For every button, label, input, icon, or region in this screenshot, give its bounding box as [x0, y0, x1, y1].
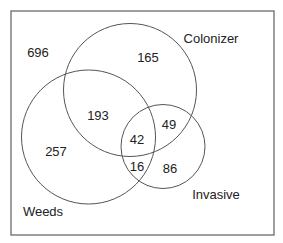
region-colonizer-only-count: 165: [137, 50, 159, 65]
region-invasive-only-count: 86: [163, 161, 177, 176]
region-all-three-count: 42: [130, 132, 144, 147]
venn-diagram: Colonizer Weeds Invasive 696 165 193 49 …: [0, 0, 283, 243]
invasive-label: Invasive: [192, 187, 240, 202]
region-colonizer-invasive-count: 49: [162, 117, 176, 132]
weeds-label: Weeds: [23, 204, 64, 219]
region-weeds-only-count: 257: [45, 144, 67, 159]
region-weeds-invasive-count: 16: [130, 159, 144, 174]
region-weeds-colonizer-count: 193: [87, 108, 109, 123]
colonizer-label: Colonizer: [184, 31, 240, 46]
region-none-count: 696: [27, 45, 49, 60]
